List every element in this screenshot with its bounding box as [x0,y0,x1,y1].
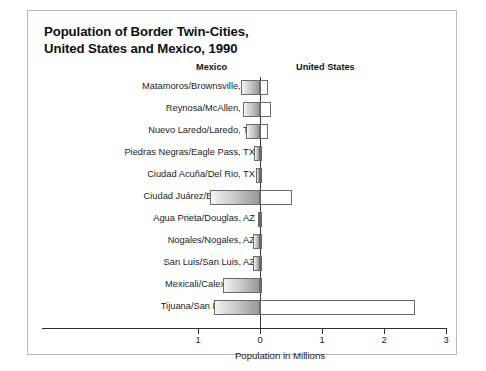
bar-mexico [243,102,260,117]
bar-mexico [246,124,260,139]
bar-united-states [260,124,268,139]
category-label: Nuevo Laredo/Laredo, TX [148,125,255,135]
bar-row: Agua Prieta/Douglas, AZ [42,209,446,231]
x-axis-line [42,328,446,329]
bar-row: Mexicali/Calexico, CA [42,275,446,297]
chart-title-line-1: Population of Border Twin-Cities, [44,23,404,40]
bar-united-states [260,234,262,249]
legend-label-mexico: Mexico [196,62,227,72]
x-axis-tick [446,328,447,334]
x-axis-tick-label: 3 [443,335,448,345]
bar-united-states [260,256,262,271]
x-axis-tick-label: 1 [319,335,324,345]
bar-row: Tijuana/San Diego, CA [42,297,446,319]
bar-mexico [241,80,260,95]
category-label: Ciudad Acuña/Del Rio, TX [147,169,255,179]
bar-mexico [223,278,260,293]
x-axis-tick [322,328,323,334]
legend-label-united-states: United States [296,62,355,72]
category-label: San Luis/San Luis, AZ [164,257,255,267]
bar-united-states [260,102,271,117]
x-axis-title: Population in Millions [42,350,446,361]
x-axis-tick-label: 1 [195,335,200,345]
bar-row: Nuevo Laredo/Laredo, TX [42,121,446,143]
category-label: Nogales/Nogales, AZ [168,235,255,245]
x-axis-tick [384,328,385,334]
bar-row: Nogales/Nogales, AZ [42,231,446,253]
chart-title-line-2: United States and Mexico, 1990 [44,40,404,57]
chart-figure: Population of Border Twin-Cities, United… [27,10,457,355]
bar-row: Ciudad Juárez/El Paso, TX [42,187,446,209]
x-axis-tick-label: 0 [257,335,262,345]
bar-mexico [210,190,260,205]
bar-row: Matamoros/Brownsville, TX [42,77,446,99]
bar-mexico [214,300,261,315]
bar-row: San Luis/San Luis, AZ [42,253,446,275]
category-label: Agua Prieta/Douglas, AZ [153,213,255,223]
bar-united-states [260,212,262,227]
category-label: Piedras Negras/Eagle Pass, TX [124,147,255,157]
x-axis-tick [260,328,261,334]
category-label: Matamoros/Brownsville, TX [142,81,255,91]
chart-title: Population of Border Twin-Cities, United… [44,23,404,57]
bar-row: Piedras Negras/Eagle Pass, TX [42,143,446,165]
bar-united-states [260,168,262,183]
bar-mexico [253,256,260,271]
x-axis-tick-label: 2 [381,335,386,345]
bar-united-states [260,146,262,161]
bar-row: Ciudad Acuña/Del Rio, TX [42,165,446,187]
bar-united-states [260,80,268,95]
bar-mexico [253,234,260,249]
plot-area: Matamoros/Brownsville, TXReynosa/McAllen… [42,77,446,319]
bar-united-states [260,300,415,315]
category-label: Reynosa/McAllen, TX [166,103,255,113]
bar-united-states [260,190,292,205]
bar-united-states [260,278,262,293]
bar-row: Reynosa/McAllen, TX [42,99,446,121]
x-axis-tick [198,328,199,334]
